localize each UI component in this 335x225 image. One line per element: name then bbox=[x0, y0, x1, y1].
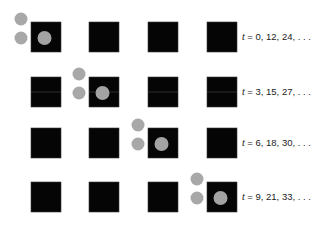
square bbox=[89, 22, 119, 52]
inner-dot bbox=[155, 137, 169, 151]
time-values: = 0, 12, 24, . . . bbox=[245, 31, 311, 42]
grid-row-0 bbox=[15, 13, 238, 53]
row-label-0: t = 0, 12, 24, . . . bbox=[242, 31, 311, 42]
grid-row-1 bbox=[31, 68, 237, 108]
timing-diagram: t = 0, 12, 24, . . . t = 3, 15, 27, . . … bbox=[0, 0, 335, 225]
upper-dot bbox=[73, 68, 86, 81]
row-label-1: t = 3, 15, 27, . . . bbox=[242, 86, 311, 97]
square bbox=[89, 128, 119, 158]
upper-dot bbox=[191, 173, 204, 186]
inner-dot bbox=[38, 31, 52, 45]
time-values: = 3, 15, 27, . . . bbox=[245, 86, 311, 97]
square bbox=[207, 128, 237, 158]
row-label-3: t = 9, 21, 33, . . . bbox=[242, 191, 311, 202]
inner-dot bbox=[214, 191, 228, 205]
grid-row-2 bbox=[31, 119, 237, 159]
inner-dot bbox=[96, 86, 110, 100]
square bbox=[207, 22, 237, 52]
square bbox=[31, 128, 61, 158]
lower-dot bbox=[191, 192, 204, 205]
square bbox=[148, 22, 178, 52]
lower-dot bbox=[132, 138, 145, 151]
lower-dot bbox=[73, 87, 86, 100]
time-values: = 9, 21, 33, . . . bbox=[245, 191, 311, 202]
square bbox=[31, 182, 61, 212]
row-label-2: t = 6, 18, 30, . . . bbox=[242, 137, 311, 148]
square bbox=[89, 182, 119, 212]
upper-dot bbox=[15, 13, 28, 26]
time-values: = 6, 18, 30, . . . bbox=[245, 137, 311, 148]
square-grid bbox=[15, 13, 238, 213]
square bbox=[148, 182, 178, 212]
grid-row-3 bbox=[31, 173, 237, 213]
upper-dot bbox=[132, 119, 145, 132]
time-labels: t = 0, 12, 24, . . . t = 3, 15, 27, . . … bbox=[242, 31, 311, 202]
lower-dot bbox=[15, 32, 28, 45]
